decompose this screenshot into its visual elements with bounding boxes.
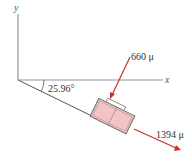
x-axis-label: x bbox=[164, 74, 170, 85]
gauge-block bbox=[90, 95, 136, 134]
label-660: 660 μ bbox=[131, 51, 154, 62]
angle-label: 25.96° bbox=[48, 83, 75, 94]
strain-diagram: y x 25.96° 660 μ 1394 μ bbox=[0, 0, 192, 161]
y-axis-label: y bbox=[13, 2, 19, 13]
label-1394: 1394 μ bbox=[156, 129, 184, 140]
arrow-660 bbox=[110, 57, 130, 99]
angle-arc bbox=[41, 80, 44, 91]
